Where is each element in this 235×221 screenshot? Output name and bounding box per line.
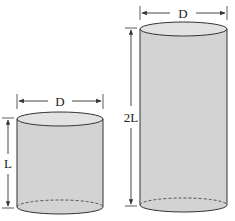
short-cylinder: [17, 112, 103, 214]
tall-diameter-dimension: D: [140, 6, 227, 21]
tall-height-dimension: 2L: [124, 28, 139, 206]
short-height-label: L: [4, 156, 12, 171]
tall-height-label: 2L: [124, 110, 139, 125]
short-diameter-dimension: D: [17, 94, 103, 109]
short-diameter-label: D: [55, 94, 64, 109]
tall-cylinder: [140, 22, 227, 212]
short-height-dimension: L: [2, 118, 14, 208]
tall-diameter-label: D: [178, 6, 187, 21]
cylinders-diagram: D L D 2L: [0, 0, 235, 221]
